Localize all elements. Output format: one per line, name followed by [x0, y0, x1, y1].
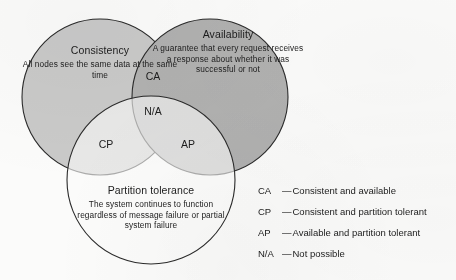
legend-key-ap: AP: [258, 228, 282, 238]
legend-item-ca: CA — Consistent and available: [258, 186, 454, 196]
legend-separator: —: [282, 207, 292, 217]
legend-key-na: N/A: [258, 249, 282, 259]
legend-separator: —: [282, 249, 292, 259]
legend-separator: —: [282, 228, 292, 238]
legend-key-cp: CP: [258, 207, 282, 217]
legend-description-cp: Consistent and partition tolerant: [293, 207, 427, 217]
legend-description-ap: Available and partition tolerant: [293, 228, 421, 238]
partition-tolerance-circle: [67, 96, 235, 264]
legend-key-ca: CA: [258, 186, 282, 196]
legend-item-na: N/A — Not possible: [258, 249, 454, 259]
legend: CA — Consistent and available CP — Consi…: [258, 186, 454, 270]
legend-item-ap: AP — Available and partition tolerant: [258, 228, 454, 238]
legend-description-ca: Consistent and available: [293, 186, 397, 196]
legend-item-cp: CP — Consistent and partition tolerant: [258, 207, 454, 217]
legend-description-na: Not possible: [293, 249, 345, 259]
legend-separator: —: [282, 186, 292, 196]
